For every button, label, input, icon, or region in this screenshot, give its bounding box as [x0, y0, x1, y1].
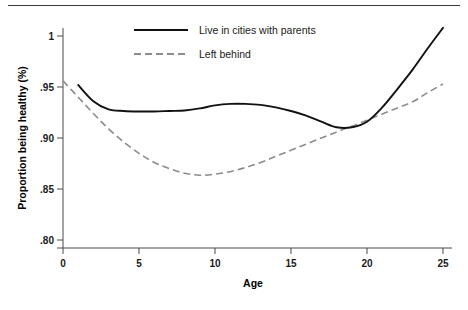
chart-legend: Live in cities with parents Left behind	[134, 24, 316, 60]
y-axis-ticks: .80.85.90.951	[40, 31, 63, 246]
x-tick-label: 20	[361, 258, 373, 269]
figure-container: .80.85.90.951 0510152025 Proportion bein…	[0, 0, 468, 310]
y-axis-title: Proportion being healthy (%)	[16, 66, 28, 210]
y-tick-label: .85	[40, 184, 54, 195]
x-tick-label: 15	[285, 258, 297, 269]
x-tick-label: 10	[209, 258, 221, 269]
y-tick-label: .95	[40, 82, 54, 93]
y-tick-label: 1	[48, 31, 54, 42]
x-axis-ticks: 0510152025	[60, 248, 449, 269]
x-tick-label: 5	[136, 258, 142, 269]
x-tick-label: 25	[437, 258, 449, 269]
series-left-behind-line	[63, 81, 443, 175]
top-divider-rule	[8, 5, 460, 6]
x-axis-title: Age	[243, 277, 263, 289]
series-live-in-cities-line	[78, 28, 443, 128]
legend-label-live-in-cities: Live in cities with parents	[199, 24, 316, 36]
y-tick-label: .90	[40, 133, 54, 144]
line-chart: .80.85.90.951 0510152025 Proportion bein…	[0, 0, 468, 310]
x-tick-label: 0	[60, 258, 66, 269]
legend-label-left-behind: Left behind	[199, 48, 251, 60]
y-tick-label: .80	[40, 235, 54, 246]
